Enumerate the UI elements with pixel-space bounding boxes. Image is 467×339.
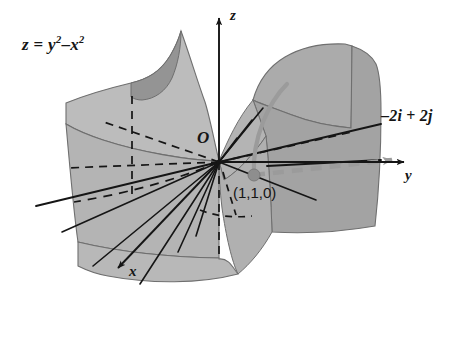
equation-label: z = y2–x2 [22, 36, 85, 53]
equation-term1-base: y [48, 35, 56, 54]
equation-lhs: z [22, 35, 29, 54]
direction-vector-label: –2i + 2j [381, 108, 433, 124]
z-axis-label: z [230, 8, 236, 23]
equation-minus: – [61, 35, 70, 54]
vector-unit-j: j [428, 107, 433, 124]
figure-container: z = y2–x2 O (1,1,0) –2i + 2j z y x [0, 0, 467, 339]
marked-point-dot [248, 169, 260, 181]
vector-coef2: 2 [420, 107, 428, 124]
origin-dot [216, 159, 221, 164]
y-axis-label: y [405, 168, 412, 183]
equation-term2-base: x [70, 35, 79, 54]
equation-term2-exponent: 2 [79, 34, 85, 45]
x-axis-label: x [129, 264, 137, 279]
vector-minus: – [381, 107, 389, 124]
origin-label: O [197, 129, 209, 146]
vector-unit-i: i [397, 107, 402, 124]
marked-point-label: (1,1,0) [233, 185, 276, 200]
vector-plus: + [406, 107, 415, 124]
equation-equals: = [33, 35, 43, 54]
